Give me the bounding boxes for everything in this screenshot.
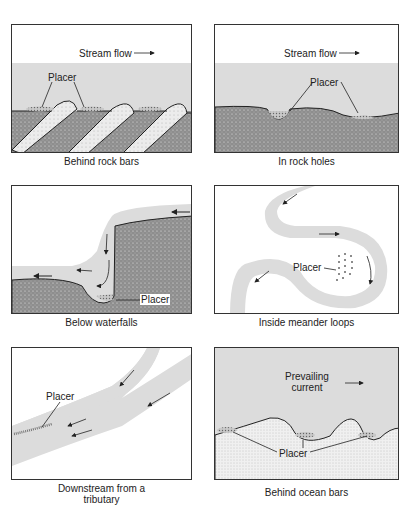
panel-rock-holes: Stream flow Placer	[214, 24, 399, 153]
placer-label: Placer	[48, 72, 76, 83]
caption-rock-holes: In rock holes	[214, 156, 399, 167]
rock-bars-illustration	[12, 25, 192, 153]
tributary-illustration	[12, 348, 192, 480]
meander-illustration	[215, 186, 399, 314]
prevailing-current-label: Prevailing current	[285, 371, 329, 393]
current-label-line-1: Prevailing	[285, 371, 329, 382]
panel-rock-bars: Stream flow Placer	[11, 24, 192, 153]
caption-tributary: Downstream from a tributary	[11, 483, 192, 505]
placer-label: Placer	[140, 294, 170, 305]
caption-line-2: tributary	[11, 494, 192, 505]
stream-flow-label: Stream flow	[79, 48, 132, 59]
current-label-line-2: current	[291, 382, 322, 393]
panel-waterfalls: Placer	[11, 185, 192, 314]
rock-holes-illustration	[215, 25, 399, 153]
placer-label: Placer	[46, 391, 74, 402]
placer-label: Placer	[293, 262, 321, 273]
caption-line-1: Downstream from a	[11, 483, 192, 494]
caption-rock-bars: Behind rock bars	[11, 156, 192, 167]
placer-label: Placer	[279, 448, 307, 459]
placer-label: Placer	[310, 77, 338, 88]
caption-waterfalls: Below waterfalls	[11, 317, 192, 328]
ocean-bars-illustration	[215, 348, 399, 480]
caption-ocean-bars: Behind ocean bars	[214, 487, 399, 498]
panel-meander: Placer	[214, 185, 399, 314]
panel-ocean-bars: Prevailing current Placer	[214, 347, 399, 480]
panel-tributary: Placer	[11, 347, 192, 480]
caption-meander: Inside meander loops	[214, 317, 399, 328]
stream-flow-label: Stream flow	[284, 48, 337, 59]
